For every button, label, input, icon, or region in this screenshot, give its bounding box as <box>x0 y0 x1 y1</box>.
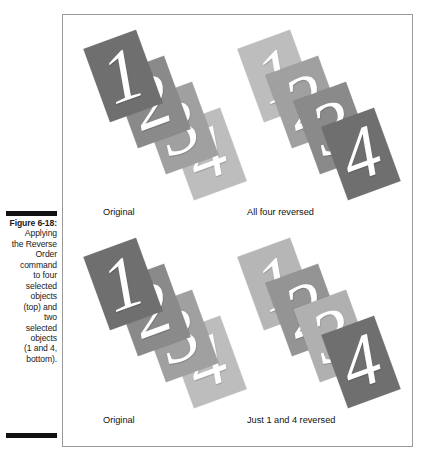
caption-rule-bottom <box>6 433 57 438</box>
panel-label-just-1-and-4-reversed: Just 1 and 4 reversed <box>235 415 395 425</box>
card-numeral: 4 <box>325 117 397 190</box>
card-4[interactable]: 4 <box>321 316 400 408</box>
panel-label-all-four-reversed: All four reversed <box>235 207 395 217</box>
panel-label-original-top: Original <box>81 207 241 217</box>
panel-all-four-reversed: 1234 All four reversed <box>235 29 395 229</box>
figure-caption-text: Figure 6-18: Applyingthe ReverseOrdercom… <box>0 218 57 364</box>
card-4[interactable]: 4 <box>321 108 400 200</box>
panel-original-top: 1234 Original <box>81 29 241 229</box>
figure-caption-body: Applyingthe ReverseOrdercommandto fourse… <box>12 228 57 363</box>
panel-original-bottom: 1234 Original <box>81 237 241 437</box>
panel-label-original-bottom: Original <box>81 415 241 425</box>
card-1[interactable]: 1 <box>83 30 162 122</box>
card-1[interactable]: 1 <box>83 238 162 330</box>
card-numeral: 4 <box>325 325 397 398</box>
illustration-frame: 1234 Original 1234 All four reversed 123… <box>62 14 413 447</box>
card-numeral: 1 <box>87 247 159 320</box>
caption-rule-top <box>6 211 57 216</box>
card-stack-just-1-and-4-reversed: 1234 <box>235 237 395 409</box>
card-numeral: 1 <box>87 39 159 112</box>
card-stack-original-top: 1234 <box>81 29 241 201</box>
panel-just-1-and-4-reversed: 1234 Just 1 and 4 reversed <box>235 237 395 437</box>
card-stack-original-bottom: 1234 <box>81 237 241 409</box>
figure-caption-column: Figure 6-18: Applyingthe ReverseOrdercom… <box>0 0 60 457</box>
figure-number-label: Figure 6-18: <box>0 218 57 228</box>
card-stack-all-four-reversed: 1234 <box>235 29 395 201</box>
